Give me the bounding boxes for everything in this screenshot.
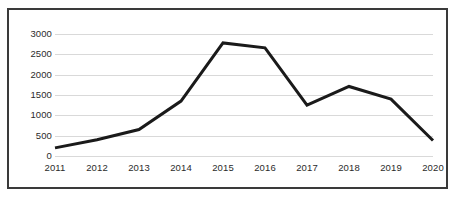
x-tick-label: 2018 bbox=[338, 163, 360, 173]
y-tick-label: 500 bbox=[36, 131, 52, 141]
x-tick-label: 2013 bbox=[128, 163, 150, 173]
y-tick-label: 2500 bbox=[30, 50, 52, 60]
x-tick-label: 2014 bbox=[170, 163, 192, 173]
data-series-line bbox=[55, 34, 433, 156]
series-polyline bbox=[55, 43, 433, 148]
x-tick-label: 2012 bbox=[86, 163, 108, 173]
y-tick-label: 0 bbox=[47, 151, 52, 161]
x-tick-label: 2020 bbox=[422, 163, 444, 173]
x-tick-label: 2016 bbox=[254, 163, 276, 173]
line-chart-figure: 050010001500200025003000 201120122013201… bbox=[0, 0, 457, 199]
gridline bbox=[55, 156, 433, 157]
x-tick-label: 2015 bbox=[212, 163, 234, 173]
x-tick-label: 2017 bbox=[296, 163, 318, 173]
x-tick-label: 2011 bbox=[45, 163, 66, 173]
x-tick-label: 2019 bbox=[380, 163, 402, 173]
y-tick-label: 2000 bbox=[30, 70, 52, 80]
plot-area bbox=[55, 34, 433, 156]
y-tick-label: 1500 bbox=[30, 90, 52, 100]
x-axis: 2011201220132014201520162017201820192020 bbox=[55, 163, 433, 179]
y-tick-label: 1000 bbox=[30, 111, 52, 121]
y-tick-label: 3000 bbox=[30, 29, 52, 39]
y-axis: 050010001500200025003000 bbox=[6, 34, 52, 156]
